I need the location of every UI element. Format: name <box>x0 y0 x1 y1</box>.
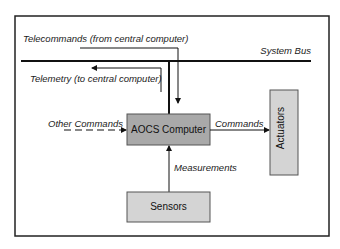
aocs-computer-label: AOCS Computer <box>131 124 207 135</box>
actuators-label: Actuators <box>275 107 286 149</box>
other-commands-label: Other Commands <box>48 118 123 129</box>
commands-label: Commands <box>215 118 264 129</box>
telemetry-label: Telemetry (to central computer) <box>30 73 162 84</box>
measurements-label: Measurements <box>174 162 237 173</box>
system-bus-label: System Bus <box>260 45 311 56</box>
aocs-diagram: System Bus Telecommands (from central co… <box>0 0 340 249</box>
telecommands-label: Telecommands (from central computer) <box>23 33 188 44</box>
sensors-label: Sensors <box>150 201 187 212</box>
